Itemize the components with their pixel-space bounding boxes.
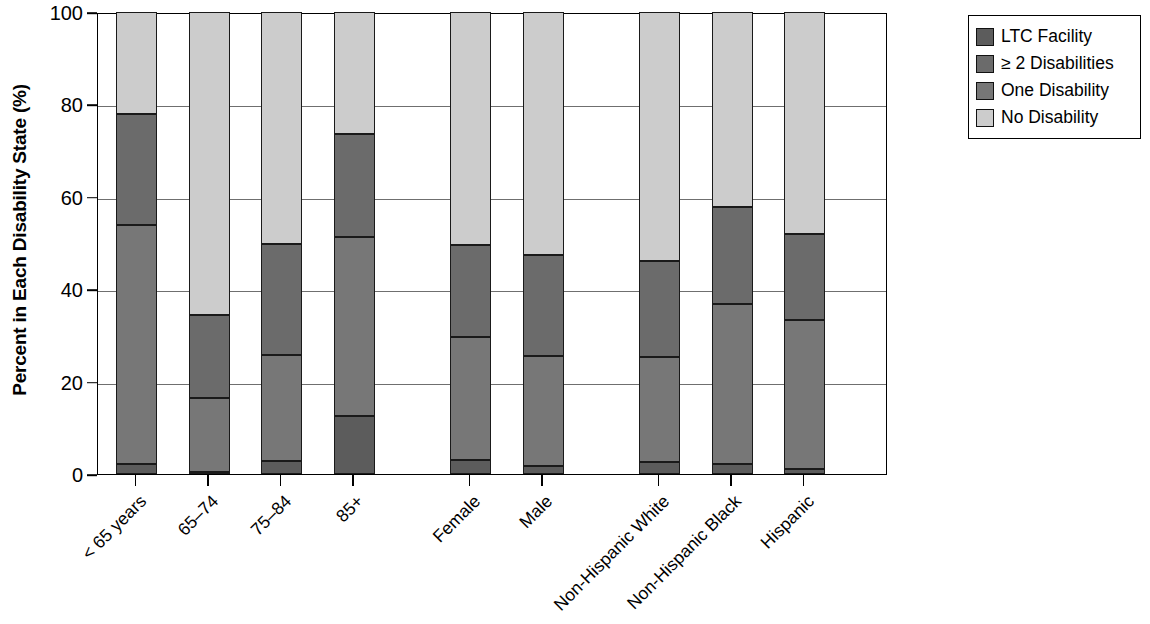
- bar-segment: [523, 356, 564, 465]
- bar-segment: [450, 245, 491, 337]
- legend-item-label: No Disability: [1001, 109, 1098, 127]
- bar-segment: [189, 12, 230, 315]
- x-tick-mark: [730, 475, 732, 486]
- bar-segment: [189, 472, 230, 474]
- bar-segment: [116, 225, 157, 464]
- bar-segment: [523, 12, 564, 255]
- y-tick-mark: [87, 197, 97, 199]
- legend-item[interactable]: LTC Facility: [976, 23, 1134, 50]
- bar-non-hispanic-white: [639, 12, 680, 474]
- legend-swatch-icon: [976, 28, 994, 46]
- bar-segment: [784, 12, 825, 234]
- y-tick-label: 20: [61, 371, 83, 394]
- y-axis-ticks: 020406080100: [0, 0, 97, 624]
- legend-item[interactable]: No Disability: [976, 104, 1134, 131]
- legend-item[interactable]: One Disability: [976, 77, 1134, 104]
- y-tick-mark: [87, 12, 97, 14]
- bar-75-84: [261, 12, 302, 474]
- bar-segment: [261, 355, 302, 461]
- x-tick-mark: [280, 475, 282, 486]
- y-tick-label: 100: [50, 2, 83, 25]
- bar-segment: [450, 12, 491, 245]
- bar-segment: [334, 237, 375, 416]
- bar-female: [450, 12, 491, 474]
- y-tick-label: 40: [61, 279, 83, 302]
- bar-segment: [261, 244, 302, 355]
- legend-swatch-icon: [976, 82, 994, 100]
- y-tick-label: 60: [61, 186, 83, 209]
- x-tick-mark: [541, 475, 543, 486]
- x-axis-ticks: < 65 years65–7475–8485+FemaleMaleNon-His…: [97, 475, 887, 624]
- bar-segment: [639, 12, 680, 261]
- bar-segment: [189, 315, 230, 399]
- x-tick-mark: [207, 475, 209, 486]
- bar-segment: [334, 134, 375, 237]
- legend-swatch-icon: [976, 55, 994, 73]
- bar-segment: [116, 464, 157, 474]
- y-tick-label: 80: [61, 94, 83, 117]
- legend-item-label: ≥ 2 Disabilities: [1001, 55, 1114, 73]
- bar-segment: [334, 12, 375, 134]
- legend-swatch-icon: [976, 109, 994, 127]
- y-tick-mark: [87, 289, 97, 291]
- legend-item-label: LTC Facility: [1001, 28, 1092, 46]
- bar-segment: [712, 207, 753, 303]
- plot-area: [97, 13, 887, 475]
- bar-segment: [523, 255, 564, 357]
- x-tick-mark: [803, 475, 805, 486]
- bar-segment: [639, 462, 680, 474]
- bar-segment: [334, 416, 375, 474]
- x-tick-mark: [469, 475, 471, 486]
- bar-65-74: [189, 12, 230, 474]
- x-tick-mark: [352, 475, 354, 486]
- bar-segment: [784, 234, 825, 320]
- bar-segment: [639, 261, 680, 356]
- bar-non-hispanic-black: [712, 12, 753, 474]
- bar-hispanic: [784, 12, 825, 474]
- bar-segment: [261, 12, 302, 244]
- legend-item-label: One Disability: [1001, 82, 1109, 100]
- bar-segment: [639, 357, 680, 462]
- x-tick-mark: [658, 475, 660, 486]
- bar-segment: [712, 12, 753, 207]
- legend-item[interactable]: ≥ 2 Disabilities: [976, 50, 1134, 77]
- bar-segment: [116, 114, 157, 225]
- y-tick-mark: [87, 474, 97, 476]
- bar-segment: [523, 466, 564, 474]
- y-tick-mark: [87, 382, 97, 384]
- bar-85: [334, 12, 375, 474]
- bar-segment: [116, 12, 157, 114]
- x-tick-mark: [135, 475, 137, 486]
- bar-65-years: [116, 12, 157, 474]
- bar-segment: [712, 304, 753, 465]
- bar-segment: [450, 337, 491, 460]
- bar-segment: [189, 398, 230, 471]
- bar-segment: [784, 320, 825, 470]
- y-tick-label: 0: [72, 464, 83, 487]
- bar-segment: [712, 464, 753, 474]
- bar-male: [523, 12, 564, 474]
- bar-segment: [784, 469, 825, 474]
- bar-segment: [261, 461, 302, 474]
- bar-segment: [450, 460, 491, 474]
- chart-legend: LTC Facility≥ 2 DisabilitiesOne Disabili…: [968, 15, 1141, 139]
- y-tick-mark: [87, 105, 97, 107]
